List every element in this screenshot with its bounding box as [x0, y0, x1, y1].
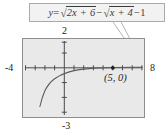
y-max-label: 2 — [62, 25, 67, 36]
graph-figure: y=√2x + 6−√x + 4−1 — [0, 0, 168, 136]
equation-constant: 1 — [140, 7, 145, 18]
marked-point — [111, 66, 115, 70]
x-max-label: 8 — [150, 62, 155, 73]
equation-callout-box: y=√2x + 6−√x + 4−1 — [29, 3, 165, 22]
y-min-label: -3 — [62, 120, 70, 131]
x-min-label: -4 — [5, 62, 13, 73]
radicand-1: 2x + 6 — [66, 6, 97, 18]
radical-1: √2x + 6 — [59, 6, 96, 19]
point-annotation-label: (5, 0) — [104, 72, 127, 83]
radicand-2: x + 4 — [109, 6, 134, 18]
radical-2: √x + 4 — [103, 6, 135, 19]
function-curve — [40, 67, 143, 106]
equation-text: y=√2x + 6−√x + 4−1 — [48, 6, 145, 19]
